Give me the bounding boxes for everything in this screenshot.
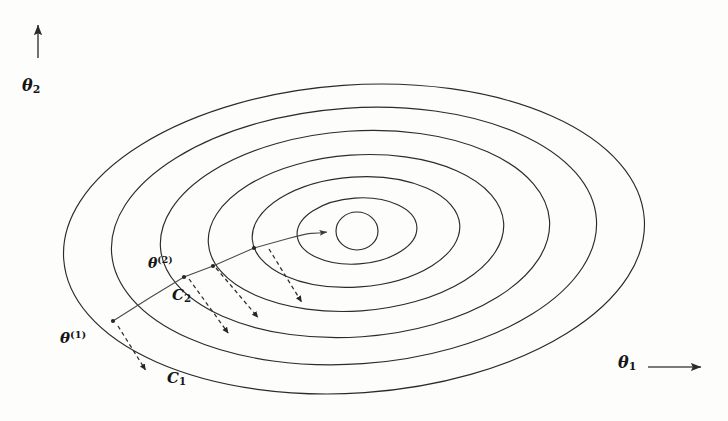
theta-initial-label-base: θ xyxy=(60,329,70,347)
contour-c1-label: C1 xyxy=(167,371,186,386)
theta-initial-label: θ(1) xyxy=(60,330,86,346)
contour-descent-figure: θ2 θ1 θ(1) θ(2) C1 C2 xyxy=(0,0,728,421)
theta2-axis-label: θ2 xyxy=(22,78,40,96)
gradient-arrow-4 xyxy=(269,249,301,302)
descent-path-group xyxy=(111,232,327,323)
theta2-axis-label-subscript: 2 xyxy=(33,83,41,96)
iterate-point-iterate-3 xyxy=(211,264,215,268)
theta-second-label: θ(2) xyxy=(148,255,173,270)
iterate-point-iterate-4 xyxy=(252,246,256,250)
theta2-axis-label-base: θ xyxy=(22,76,33,95)
iterate-point-theta-1 xyxy=(111,319,115,323)
theta-initial-label-superscript: (1) xyxy=(70,329,86,340)
theta-second-label-base: θ xyxy=(148,255,157,271)
contour-level-7-outermost xyxy=(53,65,655,413)
gradient-arrow-1 xyxy=(118,326,145,370)
contour-c2-label: C2 xyxy=(172,288,191,303)
contour-level-4 xyxy=(203,145,509,321)
theta1-axis-label-base: θ xyxy=(618,353,629,372)
contour-c1-label-base: C xyxy=(167,369,179,387)
contour-level-2 xyxy=(295,194,419,268)
gradient-arrow-2 xyxy=(189,279,228,333)
contour-c2-label-subscript: 2 xyxy=(184,292,191,304)
contour-c2-label-base: C xyxy=(172,286,184,304)
gradient-arrow-3 xyxy=(216,268,258,317)
theta-second-label-superscript: (2) xyxy=(157,254,172,265)
theta1-axis-label: θ1 xyxy=(618,355,636,373)
contour-c1-label-subscript: 1 xyxy=(179,375,186,387)
contour-level-5 xyxy=(153,118,556,351)
iterate-point-theta-2 xyxy=(182,275,186,279)
axis-group xyxy=(38,25,701,367)
contour-level-set-group xyxy=(53,65,655,413)
contour-level-1-innermost xyxy=(336,212,378,250)
theta1-axis-label-subscript: 1 xyxy=(629,360,637,373)
contour-level-3 xyxy=(248,170,463,294)
